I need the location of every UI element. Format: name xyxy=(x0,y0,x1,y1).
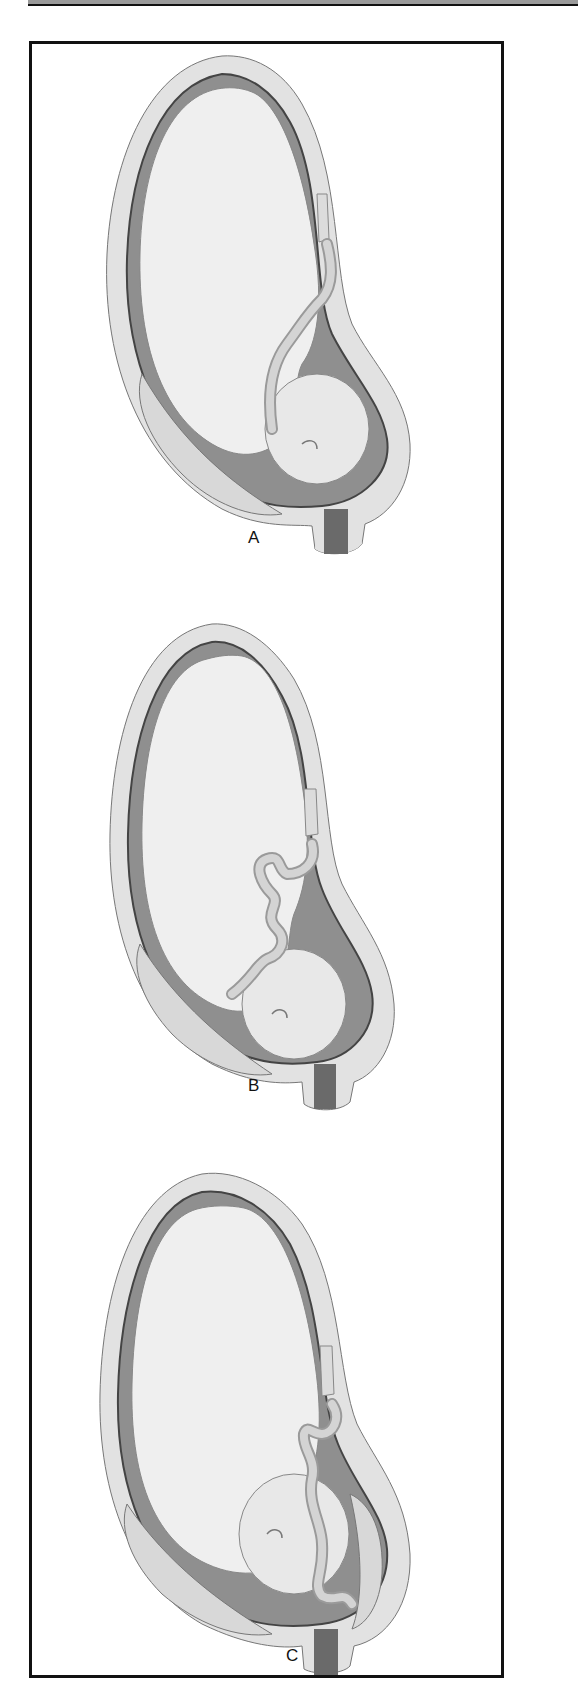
panel-a: A xyxy=(32,44,501,584)
uterus-illustration-b xyxy=(32,584,501,1134)
panel-label-a: A xyxy=(248,528,259,548)
panel-label-b: B xyxy=(248,1076,259,1096)
uterus-illustration-a xyxy=(32,44,501,584)
top-border-strip xyxy=(28,0,578,6)
uterus-illustration-c xyxy=(32,1134,501,1675)
figure-frame: A B C xyxy=(29,41,504,1678)
panel-label-c: C xyxy=(286,1646,298,1666)
panel-b: B xyxy=(32,584,501,1134)
panel-c: C xyxy=(32,1134,501,1675)
